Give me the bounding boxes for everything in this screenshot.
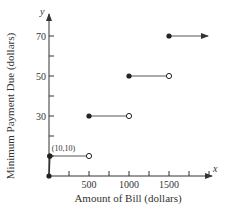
x-tick-label: 1500 bbox=[159, 179, 179, 190]
closed-point bbox=[86, 113, 91, 118]
x-tick-label: 1000 bbox=[119, 179, 139, 190]
y-tick-label: 50 bbox=[36, 71, 46, 82]
point-annotation: (10,10) bbox=[52, 144, 76, 153]
step-segment bbox=[49, 156, 50, 176]
closed-point bbox=[47, 153, 52, 158]
open-point bbox=[86, 153, 91, 158]
y-tick-label: 30 bbox=[36, 111, 46, 122]
closed-point bbox=[166, 33, 171, 38]
x-axis-symbol: x bbox=[212, 163, 218, 174]
y-axis-label: Minimum Payment Due (dollars) bbox=[4, 32, 17, 179]
y-tick-label: 70 bbox=[36, 31, 46, 42]
x-tick-label: 500 bbox=[82, 179, 97, 190]
closed-point bbox=[46, 173, 51, 178]
open-point bbox=[166, 73, 171, 78]
step-function-chart: yx30507050010001500Amount of Bill (dolla… bbox=[0, 0, 235, 211]
x-axis-label: Amount of Bill (dollars) bbox=[74, 192, 182, 205]
y-axis-symbol: y bbox=[39, 6, 45, 17]
open-point bbox=[126, 113, 131, 118]
closed-point bbox=[126, 73, 131, 78]
